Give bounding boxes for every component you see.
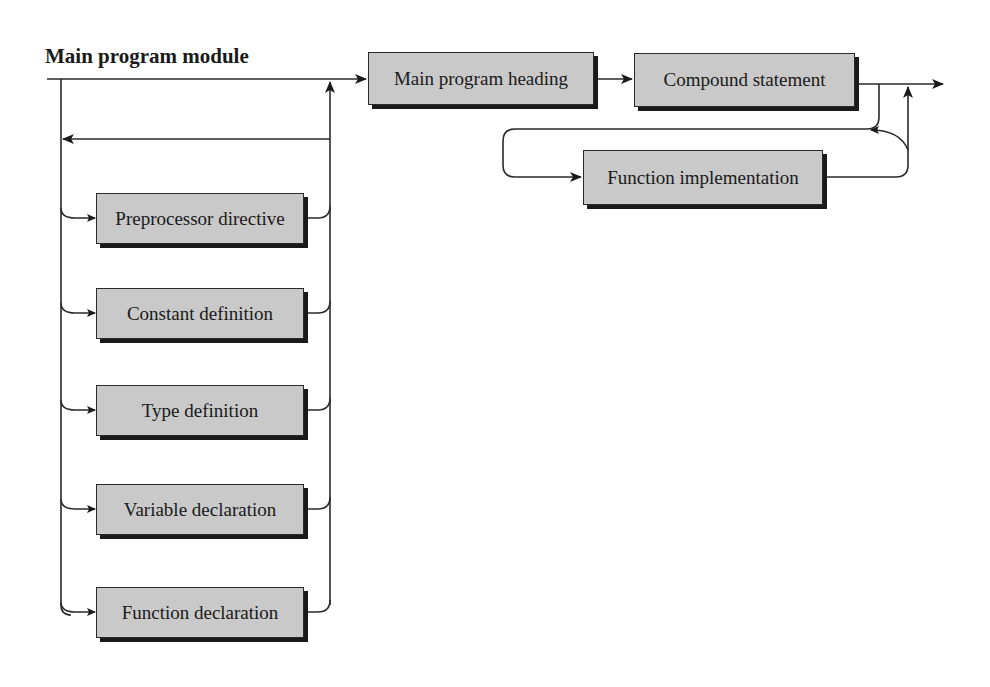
preprocessor-directive-box: Preprocessor directive [96,193,304,244]
box-label: Function declaration [122,602,279,624]
box-label: Variable declaration [124,499,276,521]
box-label: Constant definition [127,303,273,325]
box-label: Preprocessor directive [115,208,284,230]
constant-definition-box: Constant definition [96,288,304,339]
type-definition-box: Type definition [96,385,304,436]
function-declaration-box: Function declaration [96,587,304,638]
box-label: Compound statement [663,69,825,91]
box-label: Function implementation [607,167,799,189]
variable-declaration-box: Variable declaration [96,484,304,535]
box-label: Main program heading [394,68,568,90]
compound-statement-box: Compound statement [634,53,855,107]
box-label: Type definition [142,400,258,422]
function-implementation-box: Function implementation [583,150,823,205]
main-program-heading-box: Main program heading [368,52,594,105]
